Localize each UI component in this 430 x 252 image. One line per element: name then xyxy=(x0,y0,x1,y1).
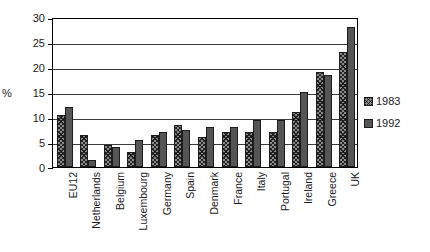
bar-group xyxy=(77,19,101,167)
bar-1983-france xyxy=(222,132,230,167)
bar-group xyxy=(53,19,77,167)
x-tick-label: Luxembourg xyxy=(138,172,149,230)
bar-1992-spain xyxy=(182,130,190,168)
bar-1992-belgium xyxy=(112,147,120,167)
bar-1983-uk xyxy=(339,52,347,167)
y-tick-label: 5 xyxy=(39,138,45,149)
x-tick-label: UK xyxy=(350,172,361,187)
bar-group xyxy=(218,19,242,167)
bar-group xyxy=(312,19,336,167)
bars-layer xyxy=(53,19,357,167)
y-tick-label: 30 xyxy=(33,13,45,24)
bar-group xyxy=(147,19,171,167)
y-tick-label: 0 xyxy=(39,163,45,174)
x-tick-label: Ireland xyxy=(303,172,314,204)
bar-1983-spain xyxy=(174,125,182,168)
legend-swatch-icon xyxy=(364,97,373,106)
bar-1983-ireland xyxy=(292,112,300,167)
bar-1983-eu12 xyxy=(57,115,65,168)
plot-area xyxy=(52,18,358,168)
x-tick-label: Belgium xyxy=(115,172,126,210)
bar-1992-denmark xyxy=(206,127,214,167)
bar-group xyxy=(124,19,148,167)
y-axis-unit-label: % xyxy=(2,88,12,99)
x-tick-label: EU12 xyxy=(68,172,79,198)
bar-group xyxy=(100,19,124,167)
chart-legend: 19831992 xyxy=(364,96,426,140)
x-tick-label: Netherlands xyxy=(91,172,102,229)
legend-label: 1992 xyxy=(376,118,400,129)
bar-group xyxy=(288,19,312,167)
bar-1983-denmark xyxy=(198,137,206,167)
bar-1992-france xyxy=(230,127,238,167)
legend-item: 1992 xyxy=(364,118,426,129)
bar-1983-greece xyxy=(316,72,324,167)
bar-1983-italy xyxy=(245,132,253,167)
bar-group xyxy=(335,19,359,167)
x-tick-label: Italy xyxy=(256,172,267,191)
bar-chart: 051015%202530 EU12NetherlandsBelgiumLuxe… xyxy=(0,0,430,252)
bar-1983-luxembourg xyxy=(127,152,135,167)
x-tick-label: Portugal xyxy=(280,172,291,211)
bar-1983-germany xyxy=(151,135,159,168)
bar-1992-uk xyxy=(347,27,355,167)
x-tick-label: Spain xyxy=(185,172,196,199)
y-tick-label: 25 xyxy=(33,38,45,49)
y-axis: 051015%202530 xyxy=(0,0,52,252)
y-tick-mark xyxy=(48,168,53,169)
x-axis: EU12NetherlandsBelgiumLuxembourgGermanyS… xyxy=(52,170,358,252)
legend-item: 1983 xyxy=(364,96,426,107)
y-tick-label: 10 xyxy=(33,113,45,124)
y-tick-label: 20 xyxy=(33,63,45,74)
bar-1992-ireland xyxy=(300,92,308,167)
legend-swatch-icon xyxy=(364,119,373,128)
x-tick-label: Germany xyxy=(162,172,173,215)
bar-group xyxy=(171,19,195,167)
bar-1992-portugal xyxy=(277,120,285,168)
bar-1992-germany xyxy=(159,132,167,167)
bar-1992-netherlands xyxy=(88,160,96,168)
legend-label: 1983 xyxy=(376,96,400,107)
bar-1983-netherlands xyxy=(80,135,88,168)
x-tick-label: France xyxy=(233,172,244,205)
x-tick-label: Greece xyxy=(327,172,338,206)
x-tick-label: Denmark xyxy=(209,172,220,215)
bar-group xyxy=(241,19,265,167)
bar-1992-luxembourg xyxy=(135,140,143,168)
bar-1992-eu12 xyxy=(65,107,73,167)
bar-1992-italy xyxy=(253,120,261,168)
bar-1983-portugal xyxy=(269,132,277,167)
bar-1992-greece xyxy=(324,75,332,168)
bar-group xyxy=(265,19,289,167)
bar-1983-belgium xyxy=(104,145,112,168)
bar-group xyxy=(194,19,218,167)
y-tick-label: 15 xyxy=(33,88,45,99)
